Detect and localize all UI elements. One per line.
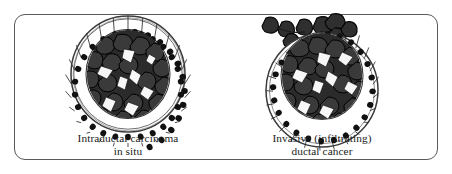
panel-intraductal-carcinoma: Intraductal carcinoma in situ <box>28 14 228 164</box>
caption-intraductal: Intraductal carcinoma in situ <box>28 132 228 157</box>
caption-invasive-line2: ductal cancer <box>222 145 422 158</box>
panel-invasive-ductal-cancer: Invasive (infiltrating) ductal cancer <box>222 14 422 164</box>
caption-invasive-line1: Invasive (infiltrating) <box>272 132 371 144</box>
caption-intraductal-line2: in situ <box>28 145 228 158</box>
illustration-figure: Intraductal carcinoma in situ <box>0 0 452 174</box>
caption-intraductal-line1: Intraductal carcinoma <box>78 132 179 144</box>
duct-cross-section-invasive <box>222 14 422 136</box>
duct-cross-section-intraductal <box>28 14 228 136</box>
caption-invasive: Invasive (infiltrating) ductal cancer <box>222 132 422 157</box>
